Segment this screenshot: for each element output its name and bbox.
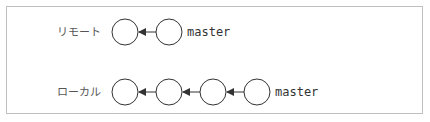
local-commit-3 [200, 79, 226, 105]
local-commit-1 [112, 79, 138, 105]
remote-label: リモート [57, 26, 101, 39]
remote-commit-2 [156, 19, 182, 45]
remote-commit-1 [112, 19, 138, 45]
local-commit-2 [156, 79, 182, 105]
local-commit-4 [244, 79, 270, 105]
local-label: ローカル [57, 86, 101, 99]
remote-branch-label: master [187, 25, 230, 39]
local-branch-label: master [275, 85, 318, 99]
git-branch-diagram: リモート master ローカル master [0, 0, 430, 122]
local-row: ローカル master [57, 79, 318, 105]
remote-row: リモート master [57, 19, 230, 45]
